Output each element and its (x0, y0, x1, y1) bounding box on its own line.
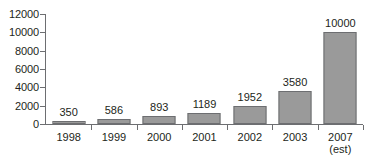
y-axis-tick-label: 10000 (0, 27, 39, 38)
x-axis-category-text: 2002 (238, 131, 262, 143)
y-axis-tick (40, 124, 45, 125)
y-axis-tick (40, 14, 45, 15)
bar-value-label: 1952 (238, 92, 262, 103)
x-axis-tick (182, 125, 183, 130)
bar-slot: 893 (137, 14, 182, 124)
bar-slot: 3580 (272, 14, 317, 124)
y-axis-tick (40, 69, 45, 70)
x-axis-category-label: 1998 (46, 131, 91, 143)
x-axis-category-text: 1998 (56, 131, 80, 143)
y-axis-tick-label: 6000 (0, 64, 39, 75)
x-axis-category-sublabel: (est) (318, 143, 363, 155)
y-axis-labels: 020004000600080001000012000 (0, 0, 39, 155)
plot-area: 35058689311891952358010000 (46, 14, 363, 124)
bar[interactable] (324, 32, 357, 124)
bar[interactable] (233, 106, 266, 124)
y-axis-tick-label: 12000 (0, 9, 39, 20)
bar-slot: 1189 (182, 14, 227, 124)
bar-value-label: 10000 (325, 18, 356, 29)
x-axis-category-label: 2007(est) (318, 131, 363, 155)
y-axis-tick (40, 32, 45, 33)
bar[interactable] (279, 91, 312, 124)
bar-value-label: 1189 (193, 99, 217, 110)
bar-slot: 10000 (318, 14, 363, 124)
bar[interactable] (188, 113, 221, 124)
x-axis-tick (91, 125, 92, 130)
x-axis-category-label: 2000 (137, 131, 182, 143)
y-axis-tick (40, 51, 45, 52)
x-axis-category-text: 2001 (192, 131, 216, 143)
y-axis-tick-label: 0 (0, 119, 39, 130)
x-axis-category-label: 1999 (91, 131, 136, 143)
bar-value-label: 3580 (283, 77, 307, 88)
y-axis-tick-label: 8000 (0, 46, 39, 57)
x-axis-category-label: 2002 (227, 131, 272, 143)
y-axis-tick (40, 106, 45, 107)
x-axis-category-text: 2007 (328, 131, 352, 143)
x-axis-category-text: 2003 (283, 131, 307, 143)
y-axis-tick-label: 4000 (0, 82, 39, 93)
x-axis-tick (318, 125, 319, 130)
bar[interactable] (97, 119, 130, 124)
bar-slot: 1952 (227, 14, 272, 124)
x-axis-category-text: 1999 (102, 131, 126, 143)
x-axis-category-text: 2000 (147, 131, 171, 143)
x-axis-tick (363, 125, 364, 130)
y-axis-tick-label: 2000 (0, 101, 39, 112)
bar-slot: 350 (46, 14, 91, 124)
bar-value-label: 893 (150, 102, 168, 113)
bar-slot: 586 (91, 14, 136, 124)
bar-value-label: 586 (105, 105, 123, 116)
x-axis-category-label: 2003 (272, 131, 317, 143)
bar-chart: 020004000600080001000012000 350586893118… (0, 0, 370, 155)
y-axis-tick (40, 87, 45, 88)
x-axis-tick (137, 125, 138, 130)
x-axis-tick (272, 125, 273, 130)
bar-value-label: 350 (59, 107, 77, 118)
x-axis-tick (227, 125, 228, 130)
bar[interactable] (52, 121, 85, 124)
x-axis-category-label: 2001 (182, 131, 227, 143)
bar[interactable] (143, 116, 176, 124)
x-axis-line (45, 124, 363, 125)
